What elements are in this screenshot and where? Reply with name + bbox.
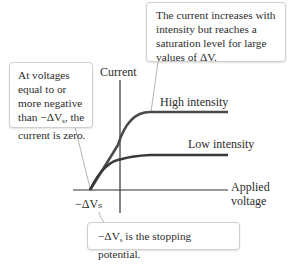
zero-current-line-4-suffix: , the <box>65 111 84 123</box>
zero-current-line-2: equal to or <box>18 82 87 96</box>
low-intensity-label: Low intensity <box>188 137 254 151</box>
zero-current-line-4-prefix: than −ΔV <box>18 111 62 123</box>
stopping-potential-axis-label: −ΔVₛ <box>75 197 102 211</box>
high-intensity-curve <box>90 112 228 190</box>
x-axis-label: Applied voltage <box>231 180 270 208</box>
stopping-potential-prefix: −ΔV <box>98 230 120 242</box>
top-callout-leader <box>151 62 158 112</box>
low-intensity-curve <box>90 155 228 190</box>
bottom-callout-leader <box>99 212 104 222</box>
y-axis-label: Current <box>100 65 137 79</box>
high-intensity-label: High intensity <box>160 95 228 109</box>
zero-current-line-3: more negative <box>18 96 87 110</box>
x-axis-label-line-1: Applied <box>231 180 270 194</box>
zero-current-line-1: At voltages <box>18 68 87 82</box>
zero-current-callout: At voltages equal to or more negative th… <box>9 62 93 128</box>
saturation-callout: The current increases with intensity but… <box>146 2 286 62</box>
zero-current-line-5: current is zero. <box>18 128 87 142</box>
saturation-callout-text: The current increases with intensity but… <box>156 9 276 63</box>
zero-current-line-4: than −ΔVs, the <box>18 110 87 128</box>
x-axis-label-line-2: voltage <box>231 194 270 208</box>
stopping-potential-callout: −ΔVs is the stopping potential. <box>87 222 240 250</box>
